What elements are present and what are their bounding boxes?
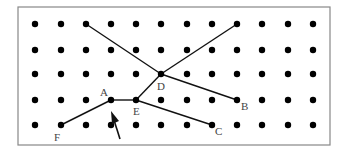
dot-grid-diagram: ABCDEF — [0, 0, 346, 154]
grid-dot — [158, 97, 164, 103]
grid-dot — [184, 47, 190, 53]
grid-dot — [209, 47, 215, 53]
grid-dot — [133, 97, 139, 103]
grid-dot — [285, 21, 291, 27]
grid-dot — [310, 21, 316, 27]
grid-dot — [108, 21, 114, 27]
grid-dot — [259, 21, 265, 27]
grid-dot — [234, 122, 240, 128]
diagram-frame — [18, 7, 330, 145]
grid-dot — [32, 122, 38, 128]
grid-dot — [83, 21, 89, 27]
line-segment — [136, 100, 212, 125]
grid-dot — [259, 97, 265, 103]
grid-dot — [310, 71, 316, 77]
grid-dot — [133, 21, 139, 27]
grid-dot — [234, 97, 240, 103]
grid-dot — [32, 71, 38, 77]
grid-dot — [108, 97, 114, 103]
grid-dot — [158, 122, 164, 128]
grid-dot — [58, 21, 64, 27]
grid-dot — [259, 71, 265, 77]
grid-dot — [32, 97, 38, 103]
grid-dot — [158, 21, 164, 27]
grid-dot — [83, 47, 89, 53]
grid-dot — [83, 122, 89, 128]
point-label-c: C — [215, 125, 222, 137]
grid-dot — [285, 122, 291, 128]
line-segment — [161, 24, 237, 74]
grid-dot — [32, 47, 38, 53]
grid-dot — [58, 71, 64, 77]
grid-dot — [133, 47, 139, 53]
grid-dot — [209, 21, 215, 27]
grid-dot — [209, 97, 215, 103]
grid-dot — [184, 21, 190, 27]
grid-dot — [133, 122, 139, 128]
grid-dot — [158, 71, 164, 77]
point-label-f: F — [54, 131, 60, 143]
line-segment — [86, 24, 161, 74]
point-label-b: B — [241, 100, 248, 112]
grid-dot — [83, 97, 89, 103]
line-segment — [161, 74, 237, 100]
grid-dot — [58, 97, 64, 103]
grid-dot — [259, 122, 265, 128]
grid-dot — [259, 47, 265, 53]
grid-dot — [58, 47, 64, 53]
grid-dot — [32, 21, 38, 27]
grid-dot — [234, 21, 240, 27]
grid-dot — [184, 71, 190, 77]
grid-dot — [209, 71, 215, 77]
grid-dot — [310, 47, 316, 53]
grid-dot — [58, 122, 64, 128]
grid-dot — [285, 47, 291, 53]
line-segment — [61, 100, 111, 125]
point-label-e: E — [133, 105, 140, 117]
point-label-a: A — [100, 86, 108, 98]
grid-dot — [184, 97, 190, 103]
grid-dot — [108, 47, 114, 53]
grid-dot — [158, 47, 164, 53]
grid-dot — [285, 71, 291, 77]
grid-dot — [133, 71, 139, 77]
grid-dot — [234, 47, 240, 53]
grid-dot — [310, 97, 316, 103]
grid-dot — [285, 97, 291, 103]
point-labels: ABCDEF — [54, 80, 248, 143]
grid-dot — [83, 71, 89, 77]
grid-dot — [234, 71, 240, 77]
grid-dot — [108, 71, 114, 77]
grid-dot — [184, 122, 190, 128]
grid-dot — [310, 122, 316, 128]
point-label-d: D — [157, 80, 165, 92]
